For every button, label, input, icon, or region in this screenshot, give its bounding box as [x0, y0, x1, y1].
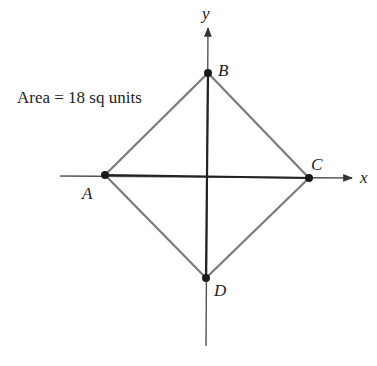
edge-cd [206, 178, 309, 278]
coordinate-diagram: A B C D x y Area = 18 sq units [0, 0, 377, 366]
point-a-label: A [81, 184, 93, 203]
x-axis-label: x [359, 168, 368, 187]
point-c-label: C [311, 155, 323, 174]
area-label: Area = 18 sq units [17, 88, 142, 107]
edge-da [105, 175, 206, 278]
y-axis-label: y [200, 4, 210, 23]
point-d [202, 274, 210, 282]
point-a [101, 171, 109, 179]
point-b-label: B [218, 61, 229, 80]
edge-bc [208, 73, 309, 178]
point-d-label: D [213, 281, 227, 300]
point-b [204, 69, 212, 77]
diagonal-bd [206, 73, 208, 278]
point-c [305, 174, 313, 182]
